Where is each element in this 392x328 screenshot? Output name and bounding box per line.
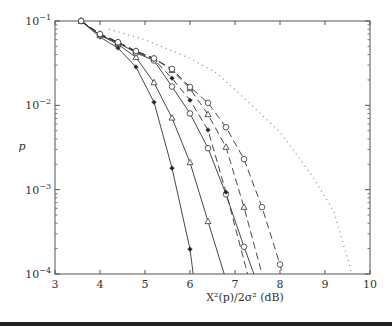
x-tick-label: 7 bbox=[232, 278, 239, 291]
y-tick-label: 10−4 bbox=[25, 266, 51, 281]
y-axis-ticks: 10−110−210−310−4 bbox=[25, 13, 370, 281]
bottom-rule bbox=[0, 322, 392, 326]
series-dotted-reference bbox=[109, 29, 352, 274]
series-layer bbox=[78, 18, 352, 274]
series-solid-triangle bbox=[78, 18, 224, 274]
series-dashed-triangle bbox=[78, 18, 262, 274]
x-tick-label: 4 bbox=[97, 278, 104, 291]
y-axis-label: p bbox=[18, 140, 25, 153]
x-tick-label: 3 bbox=[52, 278, 59, 291]
y-tick-label: 10−3 bbox=[25, 182, 51, 197]
x-tick-label: 5 bbox=[142, 278, 149, 291]
x-tick-label: 8 bbox=[277, 278, 284, 291]
series-dashed-star bbox=[79, 19, 248, 275]
x-axis-ticks: 345678910 bbox=[52, 21, 378, 291]
chart: 345678910 10−110−210−310−4 X²(p)/2σ² (dB… bbox=[0, 0, 392, 328]
x-tick-label: 6 bbox=[187, 278, 194, 291]
x-tick-label: 10 bbox=[363, 278, 377, 291]
x-axis-label: X²(p)/2σ² (dB) bbox=[206, 291, 284, 304]
y-tick-label: 10−1 bbox=[25, 13, 51, 28]
x-tick-label: 9 bbox=[322, 278, 329, 291]
y-tick-label: 10−2 bbox=[25, 97, 51, 112]
